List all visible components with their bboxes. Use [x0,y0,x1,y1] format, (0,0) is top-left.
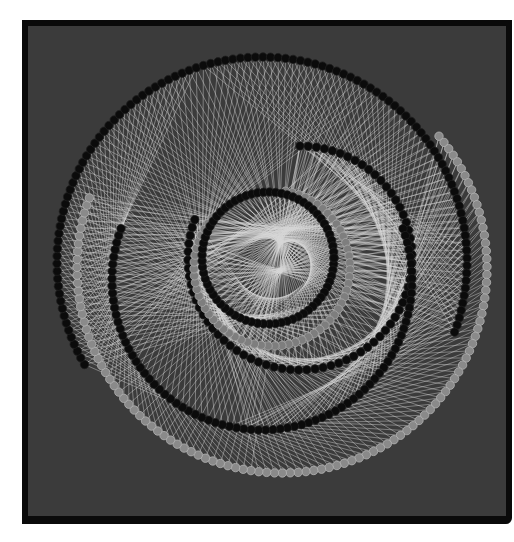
graph-node [58,304,66,312]
graph-node [460,292,468,300]
graph-edge [121,68,196,229]
graph-node [74,287,82,295]
graph-node [463,261,471,269]
graph-node [483,270,491,278]
graph-node [482,247,490,255]
graph-node [479,223,487,231]
graph-edge [273,430,374,452]
graph-node [255,468,263,476]
graph-node [478,309,486,317]
graph-node [304,142,312,150]
graph-node [317,465,325,473]
graph-node [270,363,278,371]
graph-node [482,278,490,286]
graph-node [231,463,239,471]
graph-node [270,469,278,477]
graph-node [78,216,86,224]
graph-node [224,462,232,470]
graph-node [296,56,304,64]
graph-node [60,312,68,320]
graph-node [460,224,468,232]
graph-node [188,223,196,231]
graph-node [251,53,259,61]
graph-node [229,55,237,63]
graph-node [483,263,491,271]
graph-node [53,244,61,252]
graph-node [473,201,481,209]
graph-node [185,239,193,247]
graph-node [53,267,61,275]
graph-node [342,356,350,364]
graph-node [461,231,469,239]
graph-node [481,294,489,302]
graph-node [262,361,270,369]
graph-node [480,231,488,239]
graph-node [82,325,90,333]
graph-node [340,459,348,467]
graph-node [73,271,81,279]
graph-node [73,263,81,271]
graph-node [186,231,194,239]
graph-node [55,290,63,298]
graph-node [56,222,64,230]
graph-node [77,224,85,232]
network-graph-canvas [0,0,514,542]
graph-node [325,463,333,471]
graph-node [319,363,327,371]
graph-node [462,277,470,285]
graph-node [302,467,310,475]
graph-node [78,310,86,318]
graph-node [281,54,289,62]
graph-node [247,466,255,474]
graph-node [483,255,491,263]
graph-node [459,216,467,224]
graph-node [327,361,335,369]
graph-node [479,302,487,310]
graph-node [463,246,471,254]
graph-node [80,318,88,326]
edge-layer [57,57,487,473]
graph-node [57,215,65,223]
graph-node [239,465,247,473]
graph-node [54,237,62,245]
graph-node [399,211,407,219]
graph-node [289,55,297,63]
graph-node [320,145,328,153]
graph-node [117,225,125,233]
graph-node [477,216,485,224]
graph-node [85,194,93,202]
graph-node [450,328,458,336]
graph-node [457,209,465,217]
graph-node [278,364,286,372]
graph-node [310,466,318,474]
graph-node [262,468,270,476]
graph-node [75,232,83,240]
graph-node [312,143,320,151]
graph-node [328,147,336,155]
graph-node [482,286,490,294]
graph-node [335,359,343,367]
graph-node [74,240,82,248]
graph-node [221,56,229,64]
graph-node [191,216,199,224]
graph-node [286,365,294,373]
graph-node [311,365,319,373]
graph-node [296,142,304,150]
graph-node [54,282,62,290]
graph-node [330,254,338,262]
graph-node [294,366,302,374]
graph-node [294,468,302,476]
graph-node [214,58,222,66]
graph-node [475,208,483,216]
graph-node [73,255,81,263]
graph-node [278,469,286,477]
graph-node [481,239,489,247]
graph-node [266,53,274,61]
graph-node [74,247,82,255]
graph-node [75,295,83,303]
graph-node [76,302,84,310]
graph-node [461,284,469,292]
graph-node [303,366,311,374]
graph-node [57,297,65,305]
graph-node [73,279,81,287]
